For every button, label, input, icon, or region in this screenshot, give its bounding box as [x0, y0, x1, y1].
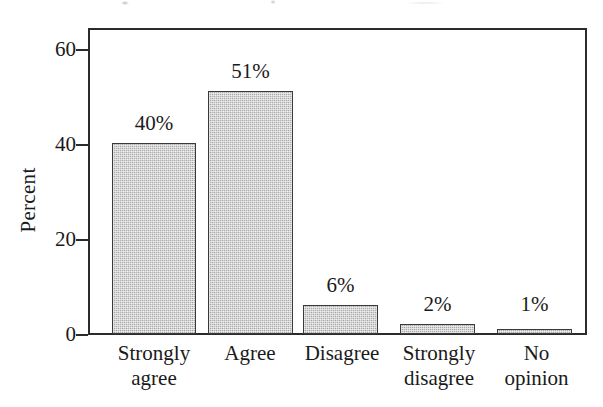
- bar-disagree: [303, 305, 378, 334]
- y-axis-title: Percent: [16, 100, 41, 300]
- bar-agree: [208, 91, 293, 334]
- x-tick-label-no-opinion: No opinion: [489, 341, 584, 391]
- scan-artifact: [95, 0, 515, 7]
- y-tick-label-20: 20: [30, 229, 76, 250]
- x-tick-label-strongly-disagree-line2: disagree: [383, 366, 495, 391]
- x-tick-label-strongly-disagree: Strongly disagree: [383, 341, 495, 391]
- y-tick-label-40: 40: [30, 134, 76, 155]
- bar-value-agree: 51%: [208, 61, 293, 82]
- bar-no-opinion: [497, 329, 572, 334]
- bar-value-strongly-agree: 40%: [112, 113, 196, 134]
- bar-value-strongly-disagree: 2%: [400, 294, 475, 315]
- y-tick-mark-40: [76, 144, 88, 146]
- y-tick-mark-0: [76, 334, 88, 336]
- x-tick-label-strongly-disagree-line1: Strongly: [403, 341, 475, 365]
- x-tick-label-strongly-agree-line1: Strongly: [118, 341, 190, 365]
- bar-value-no-opinion: 1%: [497, 294, 572, 315]
- y-tick-label-0: 0: [30, 324, 76, 345]
- y-tick-label-60: 60: [30, 39, 76, 60]
- x-tick-label-agree-line1: Agree: [224, 341, 275, 365]
- bar-chart-figure: Percent 0 20 40 60 40% 51% 6% 2% 1% Stro…: [0, 0, 603, 407]
- bar-value-disagree: 6%: [303, 275, 378, 296]
- x-tick-label-disagree-line1: Disagree: [305, 341, 380, 365]
- x-tick-label-strongly-agree-line2: agree: [94, 366, 214, 391]
- bar-strongly-disagree: [400, 324, 475, 334]
- y-tick-mark-20: [76, 239, 88, 241]
- x-tick-label-no-opinion-line2: opinion: [489, 366, 584, 391]
- x-tick-label-no-opinion-line1: No: [524, 341, 550, 365]
- y-tick-mark-60: [76, 49, 88, 51]
- x-tick-label-disagree: Disagree: [287, 341, 397, 366]
- bar-strongly-agree: [112, 143, 196, 334]
